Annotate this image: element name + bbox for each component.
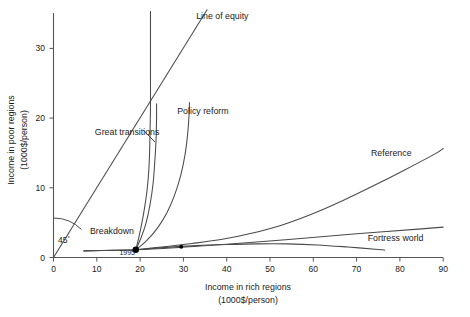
series-labels: Line of equityGreat transitionsPolicy re…: [90, 11, 424, 243]
x-tick-label-80: 80: [395, 264, 405, 274]
y-tick-label-0: 0: [40, 253, 45, 263]
y-tick-label-10: 10: [36, 183, 46, 193]
label-breakdown: Breakdown: [90, 226, 134, 236]
label-fortress-world: Fortress world: [368, 233, 424, 243]
y-tick-label-20: 20: [36, 113, 46, 123]
x-tick-label-90: 90: [438, 264, 448, 274]
label-line-of-equity: Line of equity: [196, 11, 249, 21]
x-tick-label-50: 50: [265, 264, 275, 274]
x-tick-label-10: 10: [92, 264, 102, 274]
x-tick-label-30: 30: [179, 264, 189, 274]
chart-svg: 0 10 20 30 0 10 20 30 40 50 60 70 80: [0, 0, 470, 317]
y-ticks: 0 10 20 30: [36, 43, 54, 262]
x-ticks: 0 10 20 30 40 50 60 70 80 90: [51, 258, 448, 275]
start-point-label: 1995: [119, 249, 135, 256]
y-tick-label-30: 30: [36, 43, 46, 53]
x-tick-label-70: 70: [352, 264, 362, 274]
x-axis-title-units: (1000$/person): [218, 295, 278, 305]
x-tick-label-20: 20: [135, 264, 145, 274]
y-axis-title: Income in poor regions: [6, 95, 16, 185]
curve-policy-reform: [136, 102, 190, 249]
scenario-chart-figure: 0 10 20 30 0 10 20 30 40 50 60 70 80: [0, 0, 470, 317]
x-tick-label-0: 0: [51, 264, 56, 274]
x-tick-label-40: 40: [222, 264, 232, 274]
angle-annotation: 45°: [54, 218, 82, 245]
x-tick-label-60: 60: [309, 264, 319, 274]
x-axis-title: Income in rich regions: [205, 282, 292, 292]
label-reference: Reference: [371, 148, 412, 158]
marker-breakdown-node: [179, 245, 183, 249]
y-axis-title-units: (1000$/person): [19, 110, 29, 170]
label-great-transitions: Great transitions: [95, 127, 160, 137]
label-policy-reform: Policy reform: [177, 106, 228, 116]
